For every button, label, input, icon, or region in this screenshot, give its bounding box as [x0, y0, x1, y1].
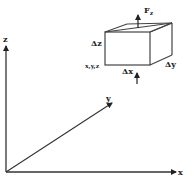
y-axis: [6, 103, 112, 172]
x-axis-label: x: [178, 167, 183, 177]
dx-label: Δx: [122, 66, 133, 76]
volume-element: [105, 23, 172, 65]
corner-label: x,y,z: [85, 62, 100, 70]
axes: z x y: [3, 34, 183, 177]
dy-label: Δy: [165, 59, 176, 69]
force-label: Fz: [144, 5, 154, 16]
dz-label: Δz: [91, 38, 102, 48]
coordinate-diagram: z x y Δz x,y,z Δx Δy Fz: [0, 0, 194, 188]
box-front-face: [105, 32, 150, 65]
z-axis-label: z: [3, 34, 8, 44]
diagram-canvas: z x y Δz x,y,z Δx Δy Fz: [0, 0, 194, 188]
y-axis-label: y: [105, 93, 111, 103]
